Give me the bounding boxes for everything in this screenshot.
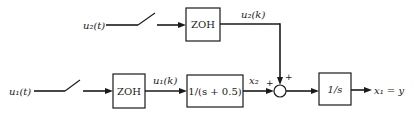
signal-x2-label: x₂ bbox=[249, 75, 259, 86]
sum-sign-left: + bbox=[266, 78, 274, 88]
summing-junction bbox=[274, 85, 286, 97]
sum-sign-top: + bbox=[285, 72, 293, 82]
sampler-switch-bottom bbox=[65, 80, 80, 91]
first-order-label: 1/(s + 0.5) bbox=[188, 86, 241, 97]
arrow-icon bbox=[364, 87, 372, 93]
signal-u2k-label: u₂(k) bbox=[241, 9, 265, 20]
arrow-icon bbox=[178, 22, 186, 28]
block-diagram: u₂(t) ZOH u₂(k) u₁(t) ZOH u₁(k) 1/(s + 0… bbox=[0, 0, 414, 122]
input-u1-label: u₁(t) bbox=[9, 86, 31, 97]
integrator-label: 1/s bbox=[328, 84, 343, 95]
arrow-icon bbox=[105, 88, 113, 94]
zoh-bottom-label: ZOH bbox=[117, 86, 141, 97]
zoh-top-label: ZOH bbox=[191, 19, 215, 30]
arrow-icon bbox=[266, 88, 274, 94]
output-label: x₁ = y bbox=[374, 85, 404, 96]
arrow-icon bbox=[277, 77, 283, 85]
arrow-icon bbox=[179, 88, 187, 94]
input-u2-label: u₂(t) bbox=[83, 20, 105, 31]
sampler-switch-top bbox=[138, 13, 155, 25]
arrow-icon bbox=[311, 88, 319, 94]
signal-u1k-label: u₁(k) bbox=[153, 75, 177, 86]
